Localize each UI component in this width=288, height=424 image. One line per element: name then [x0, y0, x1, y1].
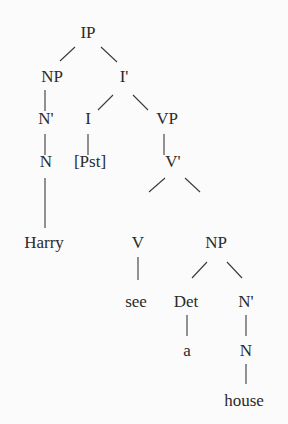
node-pst: [Pst]: [74, 152, 106, 171]
edge-vbar-v: [149, 178, 165, 192]
edge-ibar-i: [98, 95, 113, 110]
node-vbar: V': [165, 152, 180, 171]
node-house: house: [224, 391, 264, 410]
edge-vbar-np: [185, 178, 200, 192]
edge-np-nbar2: [227, 262, 242, 278]
node-n-subject: N: [40, 152, 52, 171]
node-see: see: [125, 292, 147, 311]
edge-ip-np: [60, 47, 75, 61]
edge-ip-ibar: [101, 47, 117, 62]
node-ip: IP: [80, 23, 95, 42]
node-np-subject: NP: [41, 67, 63, 86]
node-vp: VP: [156, 109, 178, 128]
node-nbar-subject: N': [38, 109, 53, 128]
node-i: I: [85, 109, 91, 128]
node-nbar-object: N': [238, 292, 253, 311]
node-harry: Harry: [24, 233, 64, 252]
node-a: a: [183, 341, 191, 360]
node-n-object: N: [240, 341, 252, 360]
node-np-object: NP: [205, 233, 227, 252]
edge-np-det: [192, 262, 207, 278]
edge-ibar-vp: [133, 95, 148, 110]
node-ibar: I': [120, 67, 129, 86]
node-v: V: [132, 233, 145, 252]
node-det: Det: [174, 292, 199, 311]
syntax-tree: IP NP I' N' I VP N [Pst] V' Harry V NP s…: [0, 0, 288, 424]
